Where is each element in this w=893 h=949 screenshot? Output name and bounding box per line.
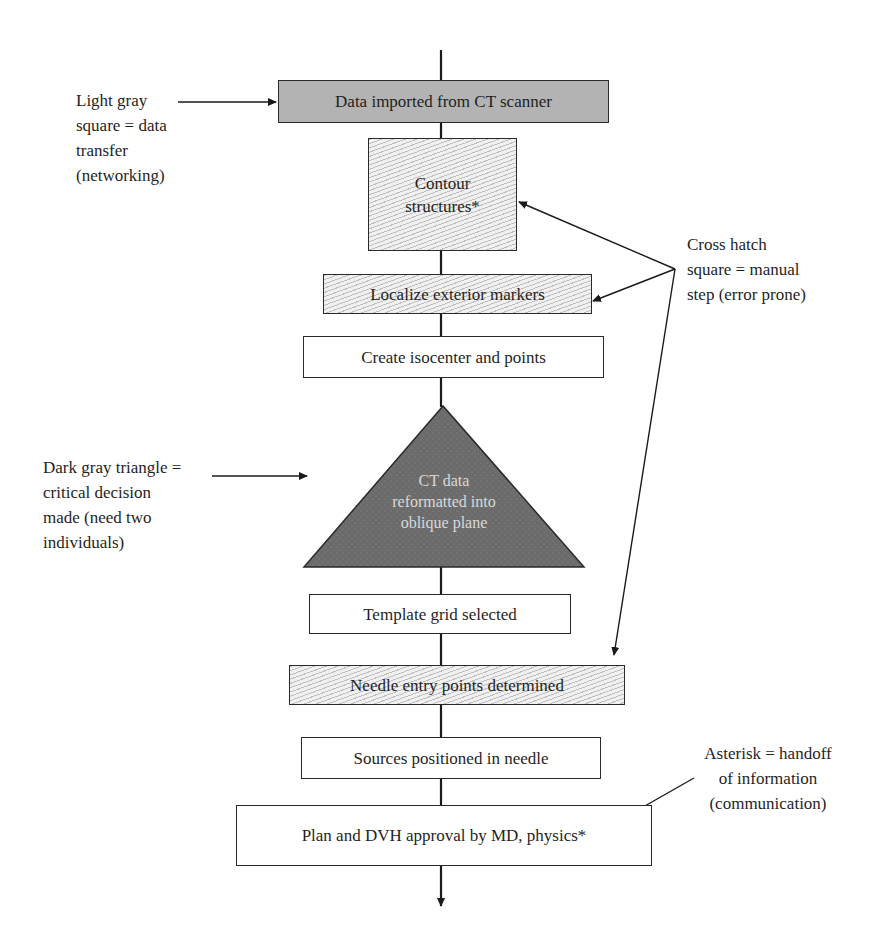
triangle-line2: reformatted into	[354, 491, 534, 512]
legend-line: critical decision	[43, 480, 181, 505]
legend-line: Cross hatch	[687, 232, 806, 257]
step-plan-approval: Plan and DVH approval by MD, physics*	[236, 805, 652, 866]
step-label: Plan and DVH approval by MD, physics*	[298, 824, 591, 847]
legend-dark-gray: Dark gray triangle = critical decision m…	[43, 455, 181, 555]
legend-line: made (need two	[43, 505, 181, 530]
step-needle-entry: Needle entry points determined	[289, 665, 625, 705]
step-label: Localize exterior markers	[366, 283, 549, 306]
legend-line: step (error prone)	[687, 282, 806, 307]
legend-asterisk: Asterisk = handoff of information (commu…	[683, 741, 853, 816]
legend-line: Light gray	[76, 88, 167, 113]
legend-line: transfer	[76, 138, 167, 163]
legend-line: Dark gray triangle =	[43, 455, 181, 480]
triangle-line3: oblique plane	[354, 512, 534, 533]
cross-hatch-arrow-contour	[519, 202, 675, 269]
step-label: Create isocenter and points	[357, 346, 550, 369]
legend-light-gray: Light gray square = data transfer (netwo…	[76, 88, 167, 188]
legend-line: (networking)	[76, 163, 167, 188]
triangle-line1: CT data	[354, 470, 534, 491]
step-data-imported: Data imported from CT scanner	[278, 80, 609, 123]
cross-hatch-arrow-needle	[614, 269, 675, 655]
legend-line: Asterisk = handoff	[683, 741, 853, 766]
step-create-isocenter: Create isocenter and points	[303, 336, 604, 378]
step-label: Sources positioned in needle	[350, 747, 553, 770]
step-label: Needle entry points determined	[346, 674, 568, 697]
legend-line: individuals)	[43, 530, 181, 555]
step-label-line1: Contour	[411, 172, 475, 195]
critical-decision-label: CT data reformatted into oblique plane	[354, 470, 534, 533]
step-label: Data imported from CT scanner	[331, 90, 556, 113]
step-label-line2: structures*	[401, 195, 484, 218]
legend-cross-hatch: Cross hatch square = manual step (error …	[687, 232, 806, 307]
legend-line: square = manual	[687, 257, 806, 282]
step-template-grid: Template grid selected	[309, 594, 571, 634]
flowchart-canvas: Data imported from CT scanner Contour st…	[0, 0, 893, 949]
legend-line: square = data	[76, 113, 167, 138]
legend-line: (communication)	[683, 791, 853, 816]
legend-line: of information	[683, 766, 853, 791]
step-sources-positioned: Sources positioned in needle	[301, 737, 601, 779]
step-localize-markers: Localize exterior markers	[323, 274, 592, 314]
cross-hatch-arrow-localize	[593, 269, 675, 301]
step-contour-structures: Contour structures*	[368, 138, 517, 251]
step-label: Template grid selected	[359, 603, 521, 626]
